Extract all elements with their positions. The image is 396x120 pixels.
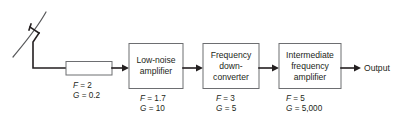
- param-value-G-1: = 0.2: [79, 91, 100, 100]
- arrowhead-1: [122, 65, 129, 72]
- svg-text:G = 10: G = 10: [140, 104, 165, 113]
- ifa-label-line3: amplifier: [294, 72, 327, 82]
- transmission-line-stage: [66, 62, 129, 76]
- param-value-G-2: = 10: [146, 104, 165, 113]
- dish-reflector-arc: [13, 12, 46, 57]
- arrowhead-3: [272, 65, 279, 72]
- low-noise-amplifier-params: F = 1.7 G = 10: [140, 94, 166, 113]
- frequency-down-converter-params: F = 3 G = 5: [216, 94, 237, 113]
- svg-text:G = 5,000: G = 5,000: [286, 104, 323, 113]
- svg-text:G = 0.2: G = 0.2: [73, 91, 101, 100]
- fdc-label-line3: converter: [213, 72, 249, 82]
- transmission-line-params: F = 2 G = 0.2: [73, 81, 101, 100]
- svg-text:F = 1.7: F = 1.7: [140, 94, 166, 103]
- param-value-F-3: = 3: [221, 94, 235, 103]
- param-value-F-1: = 2: [78, 81, 92, 90]
- svg-text:F = 5: F = 5: [286, 94, 305, 103]
- arrowhead-output: [354, 65, 361, 72]
- param-value-G-4: = 5,000: [292, 104, 322, 113]
- output-label: Output: [364, 63, 390, 73]
- diagram-canvas: Low-noise amplifier Frequency down- conv…: [0, 0, 396, 120]
- svg-text:G = 5: G = 5: [216, 104, 237, 113]
- lna-label-line2: amplifier: [140, 66, 173, 76]
- antenna-mast-and-feedline: [33, 33, 66, 68]
- feed-horn: [29, 24, 31, 30]
- transmission-line-block: [66, 62, 112, 76]
- svg-text:F = 3: F = 3: [216, 94, 235, 103]
- ifa-label-line1: Intermediate: [286, 50, 334, 60]
- parabolic-dish-antenna: [13, 12, 66, 68]
- param-value-G-3: = 5: [222, 104, 236, 113]
- fdc-label-line1: Frequency: [211, 50, 252, 60]
- param-value-F-4: = 5: [291, 94, 305, 103]
- block-diagram-figure: Low-noise amplifier Frequency down- conv…: [0, 0, 396, 120]
- feed-strut: [30, 27, 39, 33]
- ifa-label-line2: frequency: [291, 61, 329, 71]
- arrowhead-2: [196, 65, 203, 72]
- intermediate-frequency-amplifier-params: F = 5 G = 5,000: [286, 94, 323, 113]
- param-value-F-2: = 1.7: [145, 94, 166, 103]
- lna-label-line1: Low-noise: [136, 55, 175, 65]
- svg-text:F = 2: F = 2: [73, 81, 92, 90]
- fdc-label-line2: down-: [219, 61, 243, 71]
